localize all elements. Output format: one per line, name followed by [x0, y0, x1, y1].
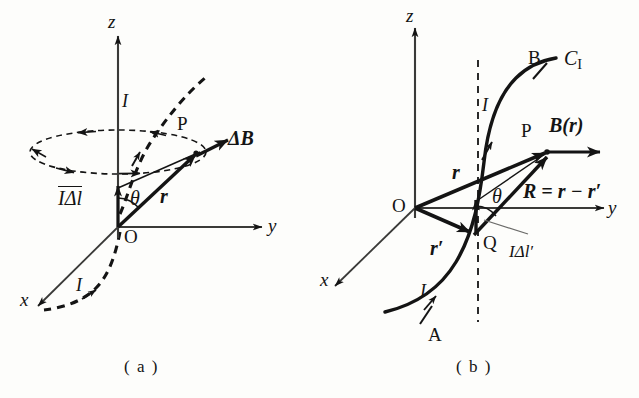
field-arrow-far-left-a: [32, 149, 46, 157]
point-P-dot-a: [193, 150, 198, 155]
axis-label-z-b: z: [406, 6, 413, 25]
point-label-A-b: A: [428, 325, 442, 344]
vector-label-r-prime-b: r′: [430, 238, 443, 258]
current-arrow-lower-a: [82, 290, 96, 299]
vector-label-current-element-b: IΔl′: [509, 243, 533, 260]
vector-label-r-b: r: [452, 162, 460, 182]
point-P-dot-b: [544, 149, 550, 155]
panel-a-graphics: [30, 36, 262, 310]
point-label-Q-b: Q: [483, 233, 497, 252]
vector-label-B-field-b: B(r): [549, 115, 583, 135]
current-label-lower-b: I: [420, 282, 426, 300]
axis-label-x-b: x: [320, 270, 328, 289]
angle-label-theta-b: θ: [492, 186, 502, 206]
curve-label-CI-subscript: I: [577, 56, 582, 72]
curve-label-CI-b: CI: [564, 48, 582, 71]
point-label-P-b: P: [521, 121, 532, 140]
axis-label-x-a: x: [20, 290, 28, 309]
current-label-lower-a: I: [76, 276, 82, 294]
current-label-upper-a: I: [122, 92, 128, 110]
point-label-B-b: B: [528, 48, 541, 67]
field-arrow-back-left-a: [78, 132, 96, 133]
axis-label-y-a: y: [268, 216, 276, 235]
vector-label-R-equation-b: R = r − r′: [523, 181, 601, 201]
caption-panel-a: ( a ): [124, 358, 159, 375]
construction-line-a: [118, 152, 200, 188]
vector-r-prime-b: [415, 208, 470, 232]
vector-label-delta-B-a: ΔB: [228, 128, 254, 148]
vector-label-r-a: r: [160, 186, 168, 206]
angle-label-theta-a: θ: [130, 188, 140, 208]
current-arrow-upper-a: [132, 152, 140, 166]
axis-label-y-b: y: [608, 198, 616, 217]
origin-label-b: O: [392, 196, 406, 215]
origin-label-a: O: [124, 227, 138, 246]
vector-label-current-element-a-text: IΔl: [58, 186, 82, 208]
panel-b-graphics: [335, 28, 604, 324]
point-label-P-a: P: [177, 114, 188, 133]
curve-label-CI-base: C: [564, 47, 577, 69]
vector-delta-B-a: [196, 140, 228, 156]
current-label-upper-b: I: [482, 96, 488, 114]
vector-label-current-element-a: IΔl: [58, 186, 82, 208]
axis-label-z-a: z: [108, 12, 115, 31]
axis-x-b: [335, 208, 415, 286]
figure-root: z y x O P I I IΔl r ΔB θ ( a ) z y x O P…: [0, 0, 639, 398]
caption-panel-b: ( b ): [456, 358, 492, 375]
